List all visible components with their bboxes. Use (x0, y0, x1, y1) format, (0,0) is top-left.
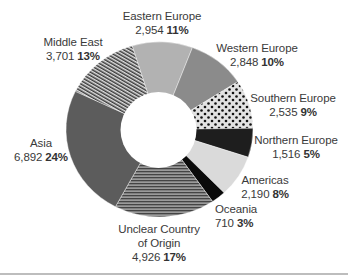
label-oceania: Oceania 7103% (215, 202, 257, 230)
donut-hole (121, 92, 197, 168)
label-percent: 9% (300, 106, 316, 118)
label-name: Americas (241, 173, 289, 187)
label-value: 1,516 (272, 148, 300, 160)
label-value: 2,848 (230, 56, 258, 68)
label-name: Oceania (215, 202, 257, 216)
label-percent: 11% (167, 24, 189, 36)
label-name: Western Europe (216, 41, 298, 55)
label-percent: 3% (237, 217, 253, 229)
label-eastern-europe: Eastern Europe 2,95411% (123, 9, 202, 37)
label-name: Northern Europe (254, 133, 338, 147)
label-percent: 17% (163, 251, 186, 263)
label-name: Southern Europe (250, 91, 335, 105)
bottom-divider (0, 273, 348, 275)
label-value: 6,892 (14, 151, 42, 163)
label-value: 3,701 (46, 50, 74, 62)
label-name: Eastern Europe (123, 9, 202, 23)
label-asia: Asia 6,89224% (14, 136, 68, 164)
label-name-line2: of Origin (118, 236, 200, 250)
label-value: 2,954 (135, 24, 163, 36)
label-middle-east: Middle East 3,70113% (44, 35, 103, 63)
label-value: 2,190 (241, 188, 269, 200)
label-percent: 24% (45, 151, 68, 163)
label-value: 2,535 (269, 106, 297, 118)
label-americas: Americas 2,1908% (241, 173, 289, 201)
label-northern-europe: Northern Europe 1,5165% (254, 133, 338, 161)
label-name: Asia (14, 136, 68, 150)
label-percent: 10% (261, 56, 284, 68)
label-value: 710 (215, 217, 234, 229)
label-name-line1: Unclear Country (118, 222, 200, 236)
label-percent: 5% (303, 148, 319, 160)
label-unclear-origin: Unclear Country of Origin 4,92617% (118, 222, 200, 264)
label-southern-europe: Southern Europe 2,5359% (250, 91, 335, 119)
label-percent: 8% (272, 188, 288, 200)
label-western-europe: Western Europe 2,84810% (216, 41, 298, 69)
label-percent: 13% (77, 50, 100, 62)
label-name: Middle East (44, 35, 103, 49)
label-value: 4,926 (132, 251, 160, 263)
